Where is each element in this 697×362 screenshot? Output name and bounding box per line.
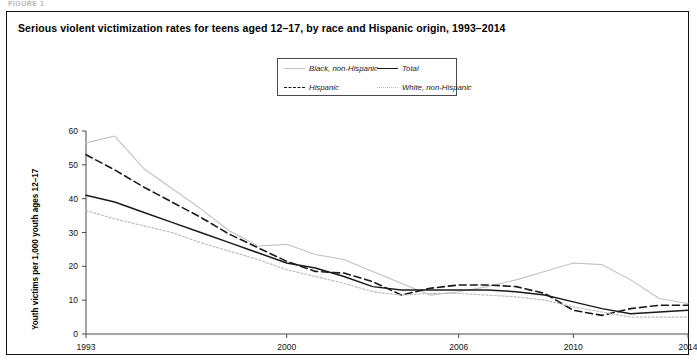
- legend-item-white-non-hispanic: White, non-Hispanic: [375, 83, 458, 92]
- legend-swatch-black-non-hispanic-icon: [284, 65, 305, 73]
- legend-swatch-hispanic-icon: [284, 84, 305, 92]
- legend-label-total: Total: [402, 64, 419, 73]
- legend-label-black-non-hispanic: Black, non-Hispanic: [309, 64, 378, 73]
- figure-page: FIGURE 1 Serious violent victimization r…: [0, 0, 697, 362]
- legend-swatch-total-icon: [377, 65, 398, 73]
- y-axis-label: Youth victims per 1,000 youth ages 12–17: [31, 169, 40, 330]
- legend-label-hispanic: Hispanic: [309, 83, 339, 92]
- legend-item-total: Total: [375, 64, 458, 73]
- chart-legend: Black, non-Hispanic Total Hispanic White…: [277, 58, 457, 96]
- legend-swatch-white-non-hispanic-icon: [377, 84, 398, 92]
- legend-label-white-non-hispanic: White, non-Hispanic: [402, 83, 472, 92]
- legend-item-black-non-hispanic: Black, non-Hispanic: [278, 64, 375, 73]
- figure-caption: FIGURE 1: [8, 0, 148, 8]
- page-title: Serious violent victimization rates for …: [18, 22, 506, 34]
- legend-item-hispanic: Hispanic: [278, 83, 375, 92]
